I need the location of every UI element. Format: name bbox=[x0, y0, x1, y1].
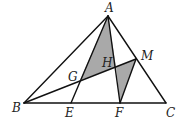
label-a: A bbox=[104, 1, 114, 15]
label-c: C bbox=[166, 106, 175, 120]
label-h: H bbox=[101, 56, 113, 70]
geometry-diagram: A B C E F M G H bbox=[0, 0, 182, 125]
label-g: G bbox=[68, 70, 78, 84]
label-b: B bbox=[11, 101, 21, 115]
segment-ac bbox=[108, 16, 166, 103]
label-e: E bbox=[64, 106, 74, 120]
label-f: F bbox=[114, 106, 124, 120]
label-m: M bbox=[140, 49, 154, 63]
